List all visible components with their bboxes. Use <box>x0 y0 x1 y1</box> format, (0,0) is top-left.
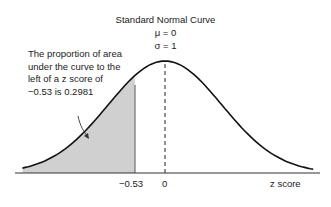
tick-label-neg053: −0.53 <box>119 178 143 190</box>
annotation-text: The proportion of area under the curve t… <box>28 48 128 98</box>
mu-label: μ = 0 <box>0 27 331 39</box>
x-axis-label: z score <box>270 178 301 190</box>
chart-title: Standard Normal Curve <box>0 14 331 26</box>
tick-label-0: 0 <box>162 178 167 190</box>
